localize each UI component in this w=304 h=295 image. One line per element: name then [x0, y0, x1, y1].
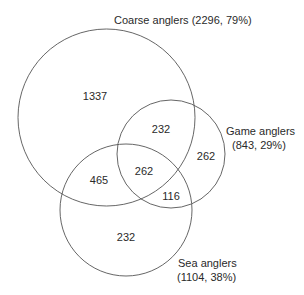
game-anglers-label: Game anglers — [226, 124, 295, 138]
sea-anglers-label: Sea anglers — [178, 256, 237, 270]
sea-anglers-circle — [60, 144, 192, 276]
region-coarse-only: 1337 — [83, 90, 107, 102]
region-sea-only: 232 — [117, 231, 135, 243]
sea-anglers-stats: (1104, 38%) — [177, 270, 236, 284]
region-game-sea: 116 — [162, 190, 180, 202]
region-coarse-sea: 465 — [90, 174, 108, 186]
region-all-three: 262 — [135, 165, 153, 177]
region-coarse-game: 232 — [152, 123, 170, 135]
game-anglers-stats: (843, 29%) — [232, 138, 286, 152]
region-game-only: 262 — [197, 150, 215, 162]
coarse-anglers-label: Coarse anglers (2296, 79%) — [114, 13, 252, 27]
